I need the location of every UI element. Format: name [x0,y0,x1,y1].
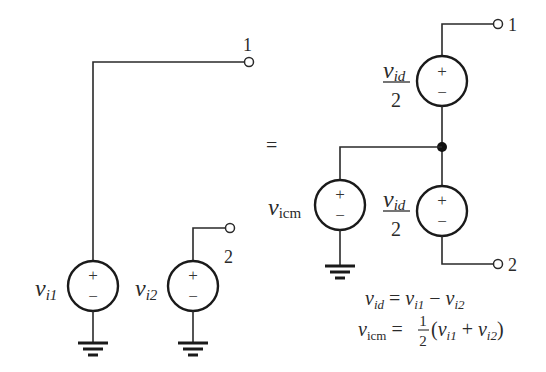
svg-text:1: 1 [419,313,427,329]
label-vid-over-2-top: vid 2 [383,57,410,111]
ground-icon [78,343,108,355]
left-circuit: 1 + − vi1 2 + − vi2 [35,35,254,355]
terminal-2-left [226,224,235,233]
svg-text:2: 2 [419,333,427,349]
minus-sign: − [437,83,447,102]
terminal-2-label-right: 2 [508,255,517,275]
terminal-1-left [245,58,254,67]
equals-sign: = [266,134,277,156]
wire-top-terminal1 [442,24,494,56]
terminal-1-label-left: 1 [243,35,252,55]
wire-bottom-terminal2 [442,236,494,264]
minus-sign: − [88,287,98,306]
terminal-2-right [494,260,503,269]
svg-text:2: 2 [391,218,401,240]
ground-icon [178,343,208,355]
plus-sign: + [437,62,447,81]
right-circuit: 1 + − vid 2 + − vicm + − vid 2 [268,15,517,278]
svg-text:vid: vid [383,57,406,84]
label-vi1: vi1 [35,275,57,303]
minus-sign: − [335,206,345,225]
wire-junction-vicm [340,147,442,180]
equations: vid = vi1 − vi2 vicm = 1 2 (vi1 + vi2) [358,287,504,349]
svg-text:vid: vid [383,186,406,213]
wire-source2-terminal2 [193,228,226,261]
equation-vid: vid = vi1 − vi2 [365,287,465,312]
ground-icon [325,266,355,278]
plus-sign: + [437,191,447,210]
terminal-2-label-left: 2 [224,247,233,267]
plus-sign: + [335,185,345,204]
circuit-diagram: 1 + − vi1 2 + − vi2 = 1 [0,0,546,372]
svg-text:(vi1 + vi2): (vi1 + vi2) [431,318,504,343]
wire-source1-terminal1 [93,62,245,261]
terminal-1-label-right: 1 [508,15,517,35]
minus-sign: − [188,287,198,306]
svg-text:vicm =: vicm = [358,318,408,343]
equation-vicm: vicm = 1 2 (vi1 + vi2) [358,313,504,349]
plus-sign: + [88,266,98,285]
label-vid-over-2-bottom: vid 2 [383,186,410,240]
svg-text:2: 2 [391,89,401,111]
label-vi2: vi2 [135,275,158,303]
plus-sign: + [188,266,198,285]
minus-sign: − [437,212,447,231]
label-vicm: vicm [268,194,301,221]
terminal-1-right [494,20,503,29]
